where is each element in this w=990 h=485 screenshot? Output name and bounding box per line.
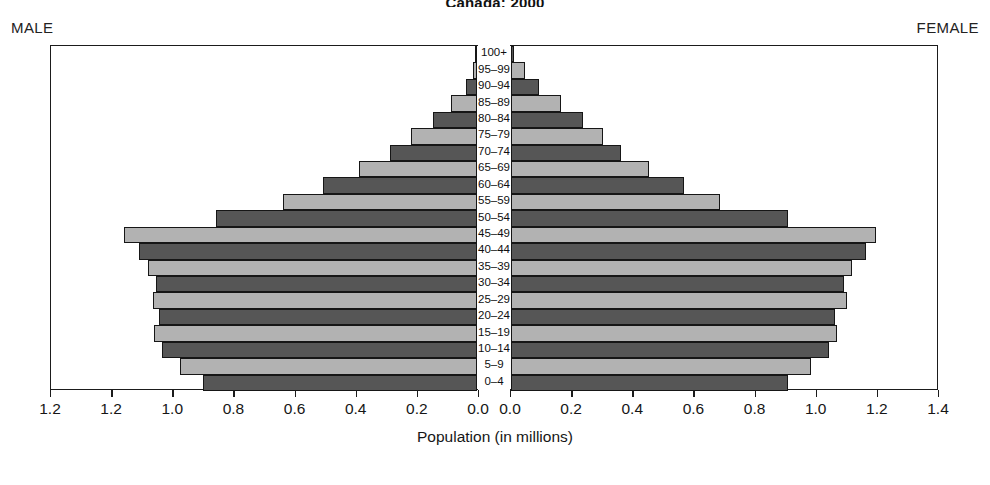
axis-tick <box>571 390 572 397</box>
bar-male-0-4 <box>203 375 477 391</box>
bar-male-5-9 <box>180 358 477 374</box>
bar-male-25-29 <box>153 292 477 308</box>
population-pyramid-chart: Canada: 2000 MALE FEMALE 100+95–9990–948… <box>0 0 990 485</box>
axis-tick <box>478 390 479 397</box>
bar-female-95-99 <box>511 62 525 78</box>
age-group-label: 25–29 <box>478 294 510 306</box>
bar-female-10-14 <box>511 342 829 358</box>
age-group-label: 70–74 <box>478 146 510 158</box>
bar-female-30-34 <box>511 276 844 292</box>
bar-male-100+ <box>475 46 477 62</box>
x-tick-label-male: 1.2 <box>88 400 134 418</box>
axis-tick <box>295 390 296 397</box>
bar-female-80-84 <box>511 112 583 128</box>
bar-male-95-99 <box>473 62 477 78</box>
age-group-label: 20–24 <box>478 310 510 322</box>
age-group-label: 30–34 <box>478 277 510 289</box>
x-tick-label-female: 0.8 <box>732 400 778 418</box>
age-group-label: 100+ <box>478 47 510 59</box>
x-tick-label-female: 0.4 <box>609 400 655 418</box>
x-axis-title: Population (in millions) <box>0 428 990 446</box>
bar-male-15-19 <box>154 325 477 341</box>
axis-tick <box>632 390 633 397</box>
axis-tick <box>111 390 112 397</box>
axis-tick <box>877 390 878 397</box>
age-group-label: 95–99 <box>478 64 510 76</box>
x-tick-label-female: 0.0 <box>487 400 533 418</box>
age-group-label: 40–44 <box>478 244 510 256</box>
bar-female-55-59 <box>511 194 720 210</box>
bar-male-45-49 <box>124 227 477 243</box>
age-group-label: 60–64 <box>478 179 510 191</box>
axis-tick <box>50 390 51 397</box>
female-side-caption: FEMALE <box>917 19 979 36</box>
bar-male-30-34 <box>156 276 477 292</box>
x-tick-label-female: 1.2 <box>854 400 900 418</box>
bar-male-90-94 <box>466 79 477 95</box>
age-group-label: 0–4 <box>478 376 510 388</box>
bar-male-75-79 <box>411 128 477 144</box>
x-tick-label-male: 0.6 <box>272 400 318 418</box>
axis-tick <box>172 390 173 397</box>
bar-female-100+ <box>511 46 514 62</box>
age-group-label: 80–84 <box>478 113 510 125</box>
x-tick-label-male: 1.2 <box>27 400 73 418</box>
bar-male-70-74 <box>390 145 477 161</box>
axis-tick <box>816 390 817 397</box>
x-tick-label-male: 1.0 <box>149 400 195 418</box>
bar-female-65-69 <box>511 161 649 177</box>
x-tick-label-female: 1.4 <box>915 400 961 418</box>
age-group-label: 35–39 <box>478 261 510 273</box>
age-group-label: 10–14 <box>478 343 510 355</box>
axis-tick <box>938 390 939 397</box>
bar-male-20-24 <box>159 309 477 325</box>
bar-male-55-59 <box>283 194 477 210</box>
x-tick-label-female: 1.0 <box>793 400 839 418</box>
bar-male-85-89 <box>451 95 477 111</box>
bar-female-20-24 <box>511 309 835 325</box>
bar-male-80-84 <box>433 112 477 128</box>
bar-female-5-9 <box>511 358 811 374</box>
bar-female-25-29 <box>511 292 847 308</box>
x-tick-label-male: 0.2 <box>394 400 440 418</box>
bar-male-40-44 <box>139 243 477 259</box>
chart-title: Canada: 2000 <box>0 0 990 7</box>
bar-female-15-19 <box>511 325 837 341</box>
axis-tick <box>755 390 756 397</box>
age-group-axis: 100+95–9990–9485–8980–8475–7970–7465–696… <box>478 45 510 390</box>
age-group-label: 65–69 <box>478 162 510 174</box>
bar-male-65-69 <box>359 161 477 177</box>
axis-tick <box>510 390 511 397</box>
bar-female-85-89 <box>511 95 561 111</box>
axis-tick <box>417 390 418 397</box>
bar-female-40-44 <box>511 243 866 259</box>
x-tick-label-female: 0.6 <box>670 400 716 418</box>
bar-female-75-79 <box>511 128 603 144</box>
bar-female-70-74 <box>511 145 621 161</box>
bar-male-50-54 <box>216 210 477 226</box>
age-group-label: 50–54 <box>478 212 510 224</box>
bar-female-0-4 <box>511 375 788 391</box>
age-group-label: 90–94 <box>478 80 510 92</box>
age-group-label: 5–9 <box>478 359 510 371</box>
age-group-label: 45–49 <box>478 228 510 240</box>
bar-female-50-54 <box>511 210 788 226</box>
axis-tick <box>693 390 694 397</box>
bar-male-60-64 <box>323 177 477 193</box>
x-tick-label-female: 0.2 <box>548 400 594 418</box>
bar-female-35-39 <box>511 260 852 276</box>
bar-male-10-14 <box>162 342 477 358</box>
axis-tick <box>356 390 357 397</box>
age-group-label: 55–59 <box>478 195 510 207</box>
age-group-label: 15–19 <box>478 327 510 339</box>
age-group-label: 85–89 <box>478 97 510 109</box>
bar-female-90-94 <box>511 79 539 95</box>
age-group-label: 75–79 <box>478 129 510 141</box>
axis-tick <box>233 390 234 397</box>
x-tick-label-male: 0.4 <box>333 400 379 418</box>
x-tick-label-male: 0.8 <box>210 400 256 418</box>
bar-female-60-64 <box>511 177 684 193</box>
male-side-caption: MALE <box>11 19 53 36</box>
bar-female-45-49 <box>511 227 876 243</box>
bar-male-35-39 <box>148 260 477 276</box>
